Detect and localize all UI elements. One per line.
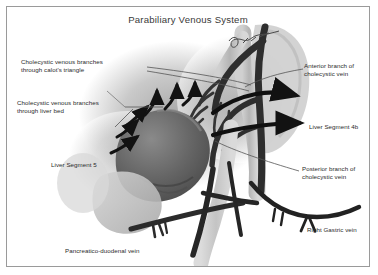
figure-frame: Parabiliary Venous System Cholecystic ve… <box>6 6 370 267</box>
label-liver-segment-5: Liver Segment 5 <box>51 161 97 169</box>
label-posterior-branch: Posterior branch of cholecystic vein <box>302 165 355 180</box>
label-calots-triangle: Cholecystic venous branches through calo… <box>21 58 103 73</box>
figure-title: Parabiliary Venous System <box>7 14 369 25</box>
label-pancreatico-duodenal: Pancreatico-duodenal vein <box>65 247 140 255</box>
right-gastric-vein <box>251 183 359 231</box>
label-liver-segment-4b: Liver Segment 4b <box>309 123 358 131</box>
label-liver-bed: Cholecystic venous branches through live… <box>17 99 99 114</box>
figure-root: Parabiliary Venous System Cholecystic ve… <box>0 0 378 275</box>
label-anterior-branch: Anterior branch of cholecystic vein <box>304 62 354 77</box>
illustration-stage: Parabiliary Venous System Cholecystic ve… <box>7 7 369 266</box>
label-right-gastric-vein: Right Gastric vein <box>307 226 357 234</box>
